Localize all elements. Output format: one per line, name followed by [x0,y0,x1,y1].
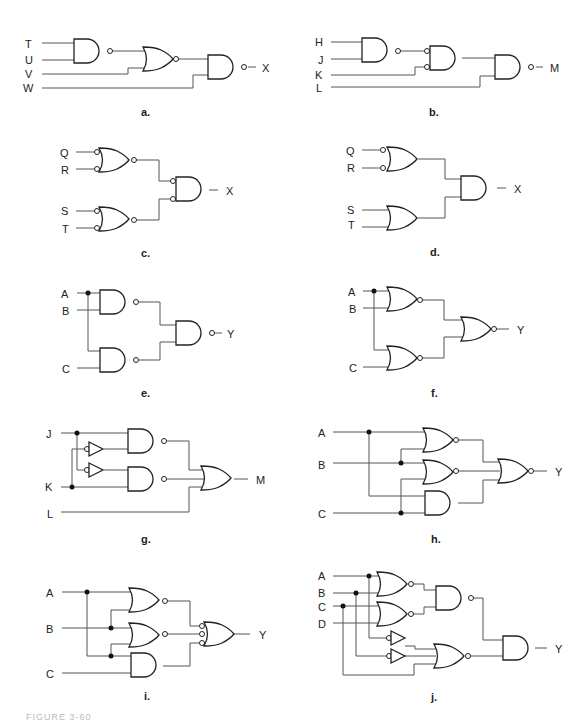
inverter [89,442,103,456]
input-label-S: S [61,205,68,217]
output-label-X: X [262,62,270,74]
circuit-b: H J K L M b. [315,36,559,118]
input-label-C: C [62,363,70,375]
output-label-Y: Y [227,328,235,340]
input-label-B: B [318,587,325,599]
output-label-Y: Y [555,466,563,478]
figure-caption: FIGURE 3-60 [26,712,92,722]
input-label-C: C [46,668,54,680]
input-label-Q: Q [60,147,69,159]
nand-gate [74,39,99,63]
input-label-B: B [318,459,325,471]
output-label-X: X [514,183,522,195]
nand-gate [208,55,233,79]
inverter [89,463,103,477]
caption-i: i. [144,690,150,702]
input-label-K: K [45,481,53,493]
input-label-A: A [318,427,326,439]
junction-dot [86,291,91,296]
circuit-f: A B C Y f. [348,286,525,399]
logic-circuits-figure: T U V W X a. H J K L M b. Q R S T [0,0,584,724]
circuit-j: A B C D Y j. [318,570,563,703]
input-label-W: W [23,82,34,94]
inversion-bubble [108,49,113,54]
output-label-M: M [256,474,265,486]
caption-j: j. [430,691,437,703]
caption-b: b. [429,106,439,118]
nor-gate [143,47,173,71]
circuit-h: A B C Y h. [318,427,563,545]
input-label-S: S [347,204,354,216]
caption-a: a. [141,106,150,118]
input-label-R: R [61,164,69,176]
input-label-J: J [46,428,52,440]
input-label-V: V [25,68,33,80]
input-label-Q: Q [346,145,355,157]
caption-d: d. [430,246,440,258]
circuit-c: Q R S T X c. [60,147,234,259]
input-label-C: C [318,601,326,613]
input-label-R: R [347,162,355,174]
output-label-Y: Y [555,643,563,655]
caption-c: c. [141,247,150,259]
input-label-A: A [46,587,54,599]
input-label-A: A [318,570,326,582]
output-label-X: X [226,185,234,197]
output-label-Y: Y [259,629,267,641]
input-label-C: C [349,362,357,374]
circuit-d: Q R S T X d. [346,145,522,258]
input-label-J: J [318,54,324,66]
input-label-T: T [348,219,355,231]
input-label-T: T [25,38,32,50]
input-label-D: D [318,618,326,630]
input-label-H: H [315,36,323,48]
circuit-i: A B C Y i. [46,587,267,702]
input-label-A: A [61,288,69,300]
input-label-L: L [316,82,322,94]
caption-h: h. [431,533,441,545]
output-label-M: M [550,62,559,74]
input-label-U: U [25,54,33,66]
output-label-Y: Y [517,324,525,336]
input-label-B: B [349,303,356,315]
input-label-B: B [46,623,53,635]
caption-g: g. [141,533,151,545]
input-label-B: B [62,305,69,317]
caption-e: e. [141,387,150,399]
input-label-A: A [348,286,356,298]
inverted-input-bubble [425,49,430,54]
circuit-g: J K L M g. [45,428,265,545]
input-label-C: C [318,508,326,520]
input-label-T: T [62,223,69,235]
caption-f: f. [431,387,438,399]
inverted-input-bubble [425,65,430,70]
circuit-a: T U V W X a. [23,38,270,118]
circuit-e: A B C Y e. [61,288,235,399]
input-label-L: L [47,508,53,520]
input-label-K: K [315,69,323,81]
